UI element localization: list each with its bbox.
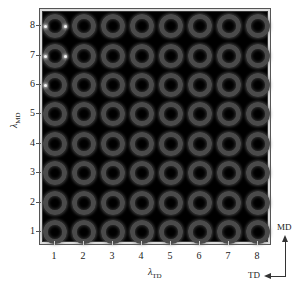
x-axis-subscript: TD — [152, 272, 161, 280]
ring-image — [101, 191, 125, 215]
td-label: TD — [248, 270, 260, 280]
ring-image — [130, 161, 154, 185]
y-tick — [36, 172, 41, 173]
y-tick-label: 3 — [27, 167, 35, 177]
ring-image — [217, 102, 241, 126]
y-axis-symbol: λ — [8, 124, 19, 128]
ring-image — [188, 191, 212, 215]
ring-image — [43, 161, 67, 185]
ring-image — [217, 132, 241, 156]
x-tick — [83, 241, 84, 245]
ring-image — [130, 220, 154, 244]
ring-image — [159, 73, 183, 97]
ring-image — [246, 44, 270, 68]
x-tick-label: 5 — [164, 251, 176, 261]
y-tick — [36, 25, 41, 26]
ring-image — [217, 73, 241, 97]
x-tick-label: 8 — [251, 251, 263, 261]
ring-image — [188, 220, 212, 244]
y-tick — [36, 113, 41, 114]
x-tick — [54, 241, 55, 245]
ring-image — [72, 102, 96, 126]
ring-image — [101, 220, 125, 244]
ring-image — [188, 102, 212, 126]
ring-image — [72, 14, 96, 38]
y-tick-label: 4 — [27, 138, 35, 148]
x-tick-label: 2 — [77, 251, 89, 261]
ring-image — [72, 191, 96, 215]
ring-image — [246, 73, 270, 97]
ring-image — [101, 14, 125, 38]
ring-image — [43, 220, 67, 244]
ring-image — [188, 161, 212, 185]
y-tick-label: 8 — [27, 20, 35, 30]
ring-image — [72, 161, 96, 185]
ring-image — [246, 191, 270, 215]
x-tick — [170, 241, 171, 245]
ring-image — [159, 132, 183, 156]
ring-image — [159, 44, 183, 68]
ring-image — [43, 102, 67, 126]
ring-image — [217, 44, 241, 68]
y-axis-subscript: MD — [14, 112, 22, 123]
x-tick-label: 7 — [222, 251, 234, 261]
ring-image — [72, 132, 96, 156]
x-tick — [199, 241, 200, 245]
ring-image — [130, 191, 154, 215]
ring-image — [159, 102, 183, 126]
ring-image — [217, 191, 241, 215]
ring-image — [101, 161, 125, 185]
ring-image — [130, 132, 154, 156]
image-grid-frame — [39, 8, 271, 245]
y-tick-label: 5 — [27, 108, 35, 118]
ring-image — [101, 132, 125, 156]
y-axis-title: λMD — [8, 112, 22, 128]
y-tick — [36, 231, 41, 232]
ring-image — [188, 14, 212, 38]
y-tick — [36, 84, 41, 85]
bright-spot — [64, 55, 67, 58]
ring-image — [246, 102, 270, 126]
ring-image — [72, 73, 96, 97]
ring-image — [246, 14, 270, 38]
y-tick — [36, 143, 41, 144]
ring-image — [43, 132, 67, 156]
x-tick — [257, 241, 258, 245]
ring-image — [246, 220, 270, 244]
ring-image — [130, 102, 154, 126]
ring-image — [217, 161, 241, 185]
ring-image — [130, 44, 154, 68]
x-tick — [228, 241, 229, 245]
ring-image — [217, 14, 241, 38]
x-tick — [112, 241, 113, 245]
ring-image — [159, 191, 183, 215]
bright-spot — [44, 84, 47, 87]
bright-spot — [44, 55, 47, 58]
ring-image — [159, 161, 183, 185]
ring-image — [72, 44, 96, 68]
ring-image — [217, 220, 241, 244]
y-tick-label: 6 — [27, 79, 35, 89]
y-tick — [36, 202, 41, 203]
ring-image — [188, 132, 212, 156]
ring-image — [159, 220, 183, 244]
ring-image-grid — [43, 12, 267, 241]
ring-image — [43, 191, 67, 215]
ring-image — [101, 102, 125, 126]
x-axis-title: λTD — [148, 266, 162, 280]
arrow-left-icon — [264, 273, 271, 279]
y-tick-label: 7 — [27, 50, 35, 60]
ring-image — [188, 44, 212, 68]
ring-image — [246, 161, 270, 185]
ring-image — [101, 44, 125, 68]
y-tick-label: 2 — [27, 197, 35, 207]
ring-image — [159, 14, 183, 38]
arrow-vertical-line — [285, 241, 286, 277]
y-tick — [36, 55, 41, 56]
x-tick-label: 6 — [193, 251, 205, 261]
y-tick-label: 1 — [27, 226, 35, 236]
x-tick-label: 4 — [135, 251, 147, 261]
ring-image — [130, 73, 154, 97]
x-tick-label: 1 — [48, 251, 60, 261]
ring-image — [246, 132, 270, 156]
